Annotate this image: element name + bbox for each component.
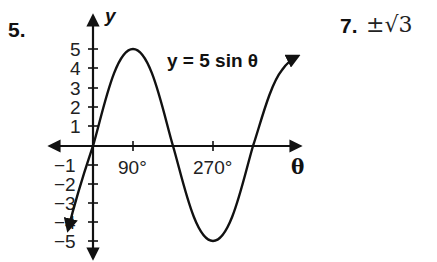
y-tick-5: 5 xyxy=(70,39,81,60)
y-tick-4: 4 xyxy=(70,58,81,79)
y-tick-1: 1 xyxy=(70,116,81,137)
y-tick-3: 3 xyxy=(70,78,81,99)
y-tick-neg5: −5 xyxy=(54,231,76,252)
y-tick-neg1: −1 xyxy=(54,155,76,176)
x-tick-90: 90° xyxy=(118,157,147,178)
x-axis-label: θ xyxy=(291,155,304,179)
equation-label: y = 5 sin θ xyxy=(167,50,258,71)
y-tick-2: 2 xyxy=(70,97,81,118)
sine-graph: 5 4 3 2 1 −1 −2 −3 −4 −5 90° 270° θ y y … xyxy=(0,0,437,262)
y-axis-label: y xyxy=(104,5,117,26)
x-tick-270: 270° xyxy=(193,157,232,178)
y-tick-neg2: −2 xyxy=(54,174,76,195)
